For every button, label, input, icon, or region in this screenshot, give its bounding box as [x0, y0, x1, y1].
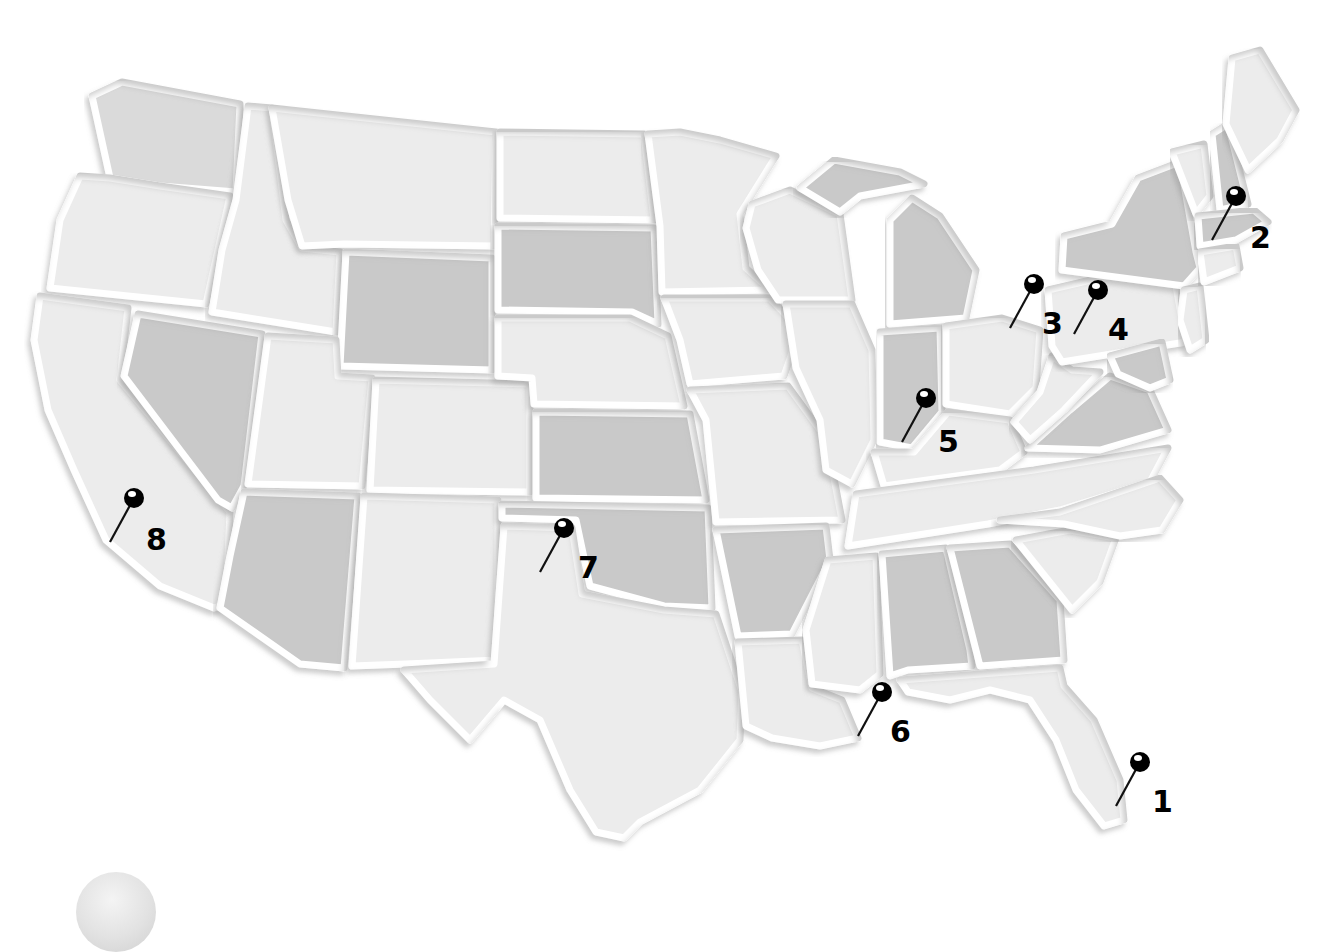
pin-head-icon	[124, 488, 144, 508]
pin-number-label: 5	[938, 424, 959, 459]
pin-number-label: 1	[1152, 784, 1173, 819]
state-kansas[interactable]	[536, 412, 706, 500]
state-connecticut[interactable]	[1200, 246, 1240, 282]
state-south-dakota[interactable]	[498, 226, 658, 324]
pin-number-label: 4	[1108, 312, 1129, 347]
state-new-mexico[interactable]	[352, 496, 498, 666]
state-new-york[interactable]	[1062, 162, 1200, 286]
pin-highlight	[876, 685, 884, 691]
decorative-sphere	[76, 872, 156, 952]
pin-head-icon	[872, 682, 892, 702]
pin-head-icon	[1024, 274, 1044, 294]
state-iowa[interactable]	[664, 298, 800, 384]
pin-head-icon	[1088, 280, 1108, 300]
states-group	[34, 50, 1296, 838]
state-wyoming[interactable]	[340, 252, 492, 370]
pin-number-label: 8	[146, 522, 167, 557]
state-montana[interactable]	[272, 108, 496, 246]
state-arizona[interactable]	[220, 492, 358, 668]
map-pin-6[interactable]: 6	[858, 682, 911, 749]
pin-number-label: 3	[1042, 306, 1063, 341]
state-oregon[interactable]	[50, 176, 230, 304]
state-new-jersey[interactable]	[1180, 286, 1206, 350]
pin-number-label: 2	[1250, 220, 1271, 255]
pin-head-icon	[1130, 752, 1150, 772]
state-michigan[interactable]	[890, 198, 976, 324]
pin-number-label: 6	[890, 714, 911, 749]
pin-highlight	[558, 521, 566, 527]
state-maine[interactable]	[1226, 50, 1296, 170]
pin-highlight	[1230, 189, 1238, 195]
state-florida[interactable]	[900, 668, 1124, 826]
pin-head-icon	[916, 388, 936, 408]
state-north-dakota[interactable]	[500, 132, 654, 220]
pin-highlight	[128, 491, 136, 497]
state-colorado[interactable]	[370, 380, 530, 492]
pin-highlight	[1092, 283, 1100, 289]
state-ohio[interactable]	[946, 318, 1040, 414]
pin-highlight	[920, 391, 928, 397]
pin-highlight	[1134, 755, 1142, 761]
pin-number-label: 7	[578, 550, 599, 585]
pin-head-icon	[1226, 186, 1246, 206]
pin-head-icon	[554, 518, 574, 538]
pin-highlight	[1028, 277, 1036, 283]
